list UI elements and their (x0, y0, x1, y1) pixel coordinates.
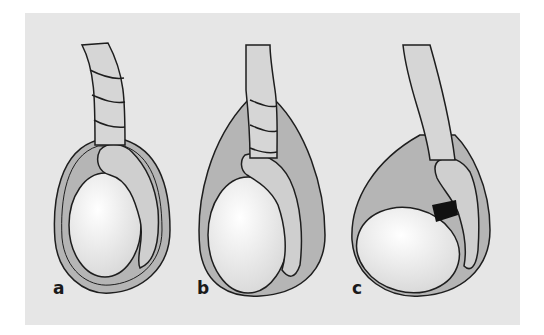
panel-label-b: b (197, 278, 209, 298)
panel-a (54, 43, 170, 293)
torsion-diagram (0, 0, 544, 335)
panel-c (347, 45, 490, 304)
panel-label-a: a (53, 278, 64, 298)
panel-b (199, 45, 325, 296)
panel-label-c: c (352, 278, 362, 298)
